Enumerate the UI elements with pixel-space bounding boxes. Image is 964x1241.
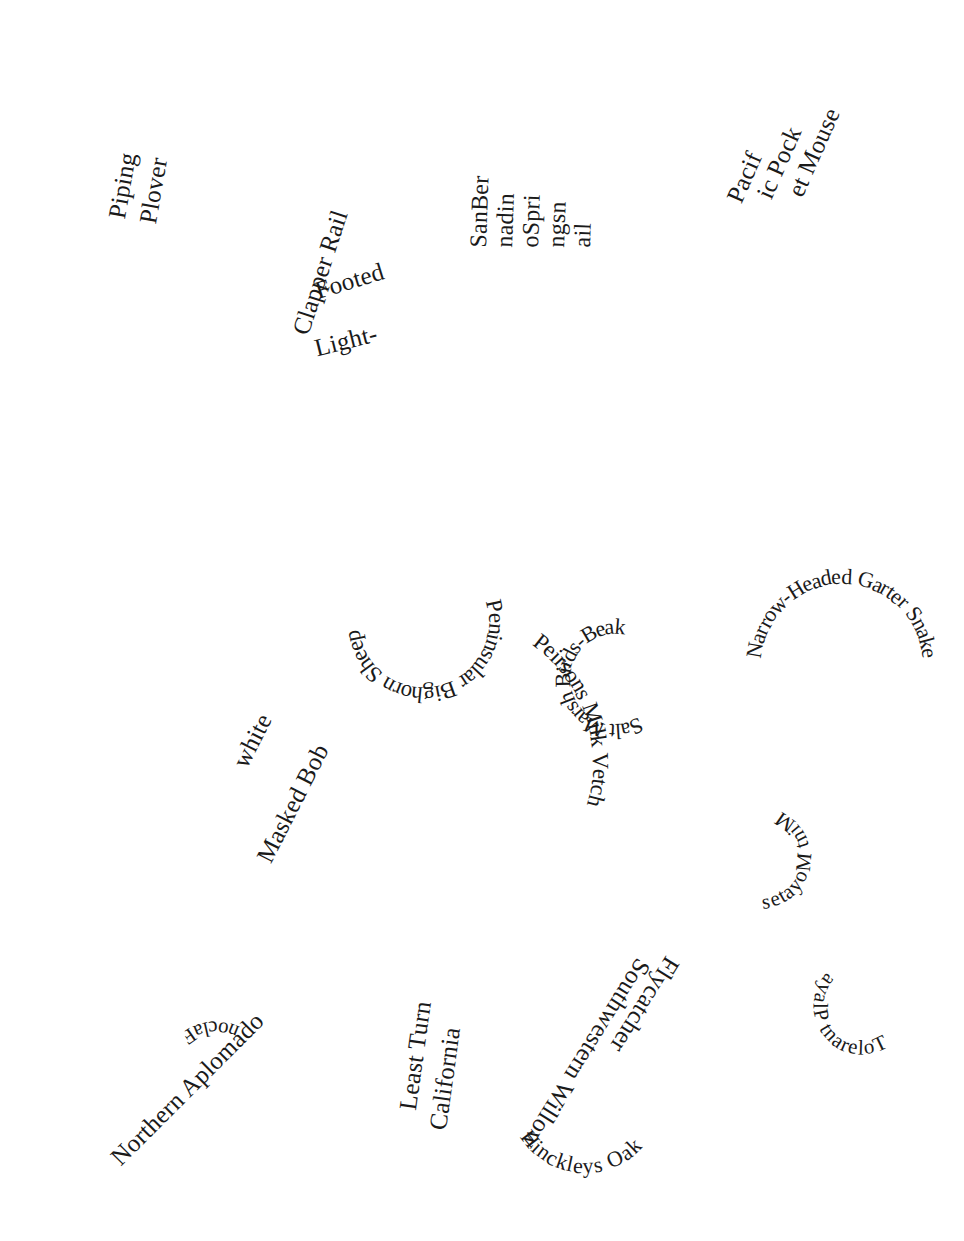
label-southwestern-willow: Southwestern Willow: [517, 955, 655, 1155]
label-masked-bob: Masked Bob: [252, 740, 333, 866]
label-ngsn: ngsn: [544, 201, 570, 248]
label-piping: Piping: [104, 151, 140, 221]
label-california: California: [425, 1026, 464, 1132]
word-scatter-canvas: Piping Plover Clapper Rail Footed Light-…: [0, 0, 964, 1241]
label-ospri: oSpri: [518, 194, 544, 248]
label-nadin: nadin: [492, 193, 518, 248]
label-light: Light-: [312, 321, 380, 361]
label-plover: Plover: [135, 156, 171, 226]
label-ail: ail: [570, 222, 595, 247]
label-white: white: [228, 710, 276, 772]
label-sanber: SanBer: [466, 175, 492, 248]
